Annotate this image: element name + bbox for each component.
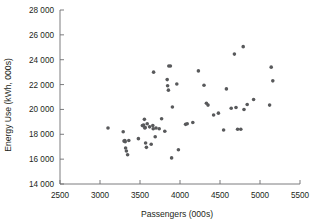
data-point [245,103,249,107]
y-tick-label: 16 000 [29,155,54,164]
data-point [143,118,147,122]
y-tick-label: 20 000 [29,105,54,114]
data-point [154,126,158,130]
data-point [242,108,246,112]
data-point [233,52,237,56]
data-point [222,128,226,132]
data-point [148,125,152,129]
data-point [166,84,170,88]
data-point [153,135,157,139]
y-axis-title: Energy Use (kWh, 000s) [3,58,13,152]
x-axis-title: Passengers (000s) [141,209,213,219]
data-point [236,128,240,132]
data-point [170,156,174,160]
data-point [149,142,153,146]
data-point [143,126,147,130]
y-axis: 14 00016 00018 00020 00022 00024 00026 0… [29,6,64,189]
chart-canvas: 14 00016 00018 00020 00022 00024 00026 0… [0,0,324,222]
data-point [185,122,189,126]
data-point [137,137,141,141]
data-point [127,139,131,143]
data-point [191,121,195,125]
y-tick-label: 28 000 [29,6,54,15]
data-point [167,88,171,92]
data-point [126,153,130,157]
y-tick-label: 24 000 [29,56,54,65]
x-tick-label: 3000 [91,191,110,200]
data-point [269,65,273,69]
data-points [106,45,274,160]
x-tick-label: 5500 [291,191,310,200]
data-point [163,129,167,133]
x-tick-label: 3500 [131,191,150,200]
data-point [234,106,238,110]
data-point [206,103,210,107]
data-point [169,64,173,68]
data-point [241,45,245,49]
data-point [271,79,275,83]
data-point [212,113,216,117]
data-point [252,98,256,102]
data-point [268,103,272,107]
data-point [152,70,156,74]
y-tick-label: 14 000 [29,180,54,189]
data-point [157,127,161,131]
data-point [225,87,229,91]
data-point [197,69,201,73]
data-point [151,124,155,128]
x-tick-label: 4000 [171,191,190,200]
data-point [202,83,206,87]
x-tick-label: 4500 [211,191,230,200]
data-point [124,146,128,150]
data-point [160,117,164,121]
data-point [145,122,149,126]
data-point [171,105,175,109]
data-point [239,128,243,132]
data-point [125,149,129,153]
data-point [177,148,181,152]
y-tick-label: 26 000 [29,31,54,40]
data-point [106,126,110,130]
y-tick-label: 22 000 [29,81,54,90]
x-tick-label: 5000 [251,191,270,200]
data-point [229,106,233,110]
x-tick-label: 2500 [51,191,70,200]
data-point [123,140,127,144]
scatter-chart: 14 00016 00018 00020 00022 00024 00026 0… [0,0,324,222]
data-point [121,130,125,134]
data-point [217,111,221,115]
data-point [165,78,169,82]
data-point [145,146,149,150]
x-axis: 2500300035004000450050005500 [51,180,310,200]
data-point [175,82,179,86]
data-point [144,141,148,145]
y-tick-label: 18 000 [29,130,54,139]
